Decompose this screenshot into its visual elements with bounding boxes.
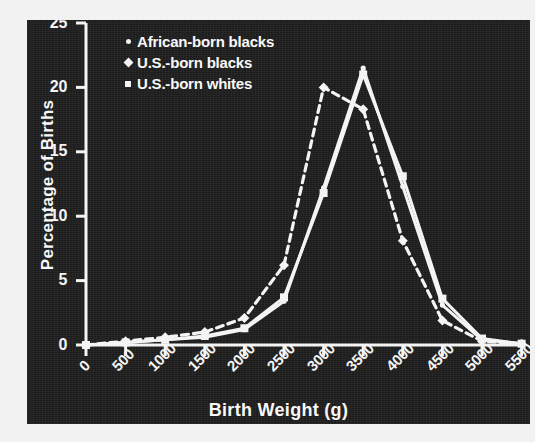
data-point-marker (280, 293, 288, 301)
chart-figure: 25 20 15 10 5 0 0 500 1000 1500 2000 250… (0, 0, 535, 442)
dot-icon (119, 39, 137, 44)
legend-item-us-born-blacks: U.S.-born blacks (119, 52, 274, 73)
legend-item-us-born-whites: U.S.-born whites (119, 73, 274, 94)
data-point-marker (239, 313, 249, 323)
data-point-marker (398, 236, 408, 246)
data-point-marker (399, 172, 407, 180)
data-point-marker (82, 341, 90, 349)
data-point-marker (361, 65, 366, 70)
series-u-s-born-whites (82, 71, 526, 349)
legend-label: U.S.-born blacks (137, 54, 252, 71)
legend-label: U.S.-born whites (137, 75, 252, 92)
data-point-marker (320, 189, 328, 197)
plot-panel: 25 20 15 10 5 0 0 500 1000 1500 2000 250… (27, 20, 530, 424)
diamond-icon (119, 59, 137, 66)
data-series-layer (81, 65, 527, 350)
y-tick-label: 0 (27, 337, 67, 353)
data-point-marker (440, 302, 445, 307)
series-line (86, 75, 522, 345)
legend-label: African-born blacks (137, 33, 274, 50)
data-point-marker (240, 324, 248, 332)
data-point-marker (201, 332, 209, 340)
legend-item-african-born-blacks: African-born blacks (119, 31, 274, 52)
y-tick-label: 25 (27, 20, 67, 31)
data-point-marker (438, 295, 446, 303)
x-axis-title: Birth Weight (g) (27, 400, 530, 421)
legend: African-born blacks U.S.-born blacks U.S… (119, 31, 274, 94)
series-line (86, 87, 522, 345)
square-icon (119, 81, 137, 87)
series-line (86, 68, 522, 345)
series-african-born-blacks (83, 65, 524, 347)
series-u-s-born-blacks (81, 82, 527, 350)
y-axis-title: Percentage of Births (38, 90, 58, 280)
data-point-marker (359, 71, 367, 79)
